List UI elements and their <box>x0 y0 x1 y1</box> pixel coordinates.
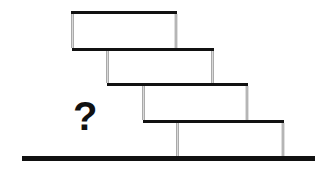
question-mark: ? <box>73 96 97 136</box>
stacked-blocks-diagram <box>0 0 332 177</box>
diagram-canvas: ? <box>0 0 332 177</box>
